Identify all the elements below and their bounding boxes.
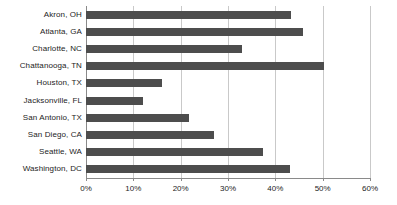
- bar: [86, 148, 263, 156]
- gridline-50%: [323, 6, 324, 178]
- x-axis-tick-label: 0%: [66, 184, 106, 194]
- x-axis-tick-label: 20%: [161, 184, 201, 194]
- category-label: Washington, DC: [0, 164, 82, 173]
- x-axis-tick-label: 30%: [208, 184, 248, 194]
- bar-chart: Akron, OHAtlanta, GACharlotte, NCChattan…: [0, 0, 397, 205]
- category-label: Chattanooga, TN: [0, 61, 82, 70]
- bar: [86, 62, 324, 70]
- x-axis-tick-label: 40%: [255, 184, 295, 194]
- category-label: Akron, OH: [0, 10, 82, 19]
- category-label: Atlanta, GA: [0, 27, 82, 36]
- bar: [86, 28, 303, 36]
- x-axis-tick: [275, 178, 276, 181]
- bar: [86, 131, 214, 139]
- plot-area: [86, 6, 370, 178]
- x-axis-tick-label: 50%: [303, 184, 343, 194]
- bar: [86, 114, 189, 122]
- x-axis-tick: [370, 178, 371, 181]
- category-label: Seattle, WA: [0, 147, 82, 156]
- y-axis-category-labels: Akron, OHAtlanta, GACharlotte, NCChattan…: [0, 6, 82, 178]
- category-label: Jacksonville, FL: [0, 96, 82, 105]
- x-axis-tick: [181, 178, 182, 181]
- category-label: Charlotte, NC: [0, 44, 82, 53]
- x-axis-tick: [86, 178, 87, 181]
- bar: [86, 45, 242, 53]
- x-axis-tick: [228, 178, 229, 181]
- category-label: San Diego, CA: [0, 130, 82, 139]
- x-axis-tick-label: 10%: [113, 184, 153, 194]
- category-label: Houston, TX: [0, 78, 82, 87]
- bar: [86, 165, 290, 173]
- x-axis-tick: [133, 178, 134, 181]
- gridline-60%: [370, 6, 371, 178]
- x-axis-tick-label: 60%: [350, 184, 390, 194]
- category-label: San Antonio, TX: [0, 113, 82, 122]
- bar: [86, 11, 291, 19]
- bar: [86, 79, 162, 87]
- x-axis-tick: [323, 178, 324, 181]
- bar: [86, 97, 143, 105]
